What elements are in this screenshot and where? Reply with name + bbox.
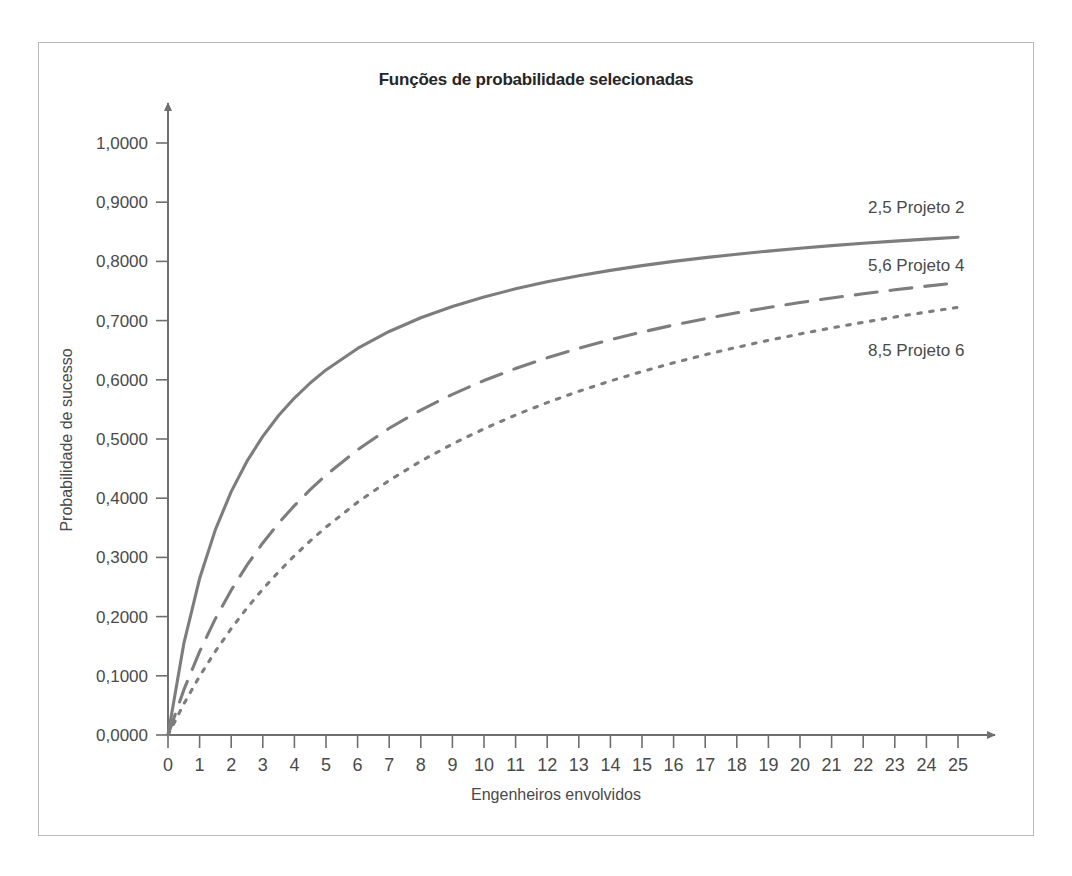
y-tick-label: 0,7000 [96,312,148,331]
y-tick-label: 0,8000 [96,252,148,271]
y-axis: 0,00000,10000,20000,30000,40000,50000,60… [96,103,168,745]
x-tick-label: 7 [384,755,394,775]
x-tick-label: 3 [258,755,268,775]
x-tick-label: 20 [790,755,810,775]
y-tick-label: 1,0000 [96,134,148,153]
chart-plot-area: 0,00000,10000,20000,30000,40000,50000,60… [0,0,1072,876]
series-line-2 [168,283,958,735]
x-tick-label: 25 [948,755,968,775]
x-tick-label: 0 [163,755,173,775]
x-tick-label: 16 [664,755,684,775]
series-labels: 2,5 Projeto 25,6 Projeto 48,5 Projeto 6 [868,198,964,360]
x-tick-label: 22 [853,755,873,775]
figure-root: Funções de probabilidade selecionadas 0,… [0,0,1072,876]
x-tick-label: 4 [289,755,299,775]
y-tick-label: 0,6000 [96,371,148,390]
x-tick-label: 15 [632,755,652,775]
x-tick-label: 21 [822,755,842,775]
x-tick-label: 18 [727,755,747,775]
x-tick-label: 9 [447,755,457,775]
x-tick-label: 11 [506,755,525,775]
x-tick-label: 24 [916,755,936,775]
series-lines [168,237,958,735]
series-label-2: 5,6 Projeto 4 [868,256,964,275]
series-label-3: 8,5 Projeto 6 [868,341,964,360]
x-tick-label: 8 [416,755,426,775]
series-line-3 [168,307,958,735]
y-tick-label: 0,0000 [96,726,148,745]
x-tick-label: 14 [600,755,620,775]
y-tick-label: 0,4000 [96,489,148,508]
x-tick-label: 23 [885,755,905,775]
x-tick-label: 5 [321,755,331,775]
x-tick-label: 12 [537,755,557,775]
x-tick-label: 13 [569,755,589,775]
x-tick-label: 1 [195,755,205,775]
x-tick-label: 17 [695,755,715,775]
y-tick-label: 0,1000 [96,667,148,686]
y-tick-label: 0,5000 [96,430,148,449]
x-axis: 0123456789101112131415161718192021222324… [163,735,995,775]
y-tick-label: 0,3000 [96,548,148,567]
series-label-1: 2,5 Projeto 2 [868,198,964,217]
x-tick-label: 19 [758,755,778,775]
y-tick-label: 0,9000 [96,193,148,212]
y-tick-label: 0,2000 [96,608,148,627]
x-tick-label: 6 [353,755,363,775]
y-axis-title: Probabilidade de sucesso [58,348,75,531]
x-axis-title: Engenheiros envolvidos [471,786,641,803]
series-line-1 [168,237,958,735]
x-tick-label: 2 [226,755,236,775]
x-tick-label: 10 [474,755,494,775]
